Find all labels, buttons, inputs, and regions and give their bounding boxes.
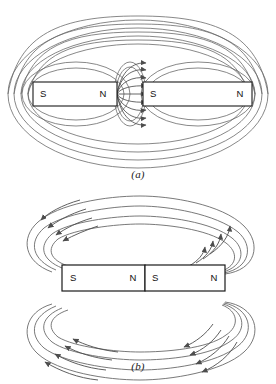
panel-b-drawing: S N S N: [0, 192, 276, 384]
pole-label-n-right-b: N: [211, 272, 218, 283]
upper-right-arrows-b: [189, 226, 230, 266]
panel-a-drawing: S N S N: [0, 0, 276, 192]
pole-label-n-left-a: N: [100, 88, 107, 99]
caption-a: (a): [0, 168, 276, 180]
panel-a-left-magnet: S N: [33, 82, 117, 106]
pole-label-s-left-b: S: [70, 272, 76, 283]
panel-b-left-magnet: S N: [62, 265, 145, 291]
panel-b-right-magnet: S N: [145, 265, 225, 291]
magnetic-field-figure: S N S N (a): [0, 0, 276, 384]
upper-field-loops-b: [27, 196, 254, 274]
panel-b: S N S N: [0, 192, 276, 384]
panel-a-right-magnet: S N: [143, 82, 252, 106]
pole-label-n-left-b: N: [130, 272, 137, 283]
pole-label-n-right-a: N: [237, 88, 244, 99]
caption-b: (b): [0, 360, 276, 372]
panel-a: S N S N: [0, 0, 276, 192]
pole-label-s-left-a: S: [40, 88, 46, 99]
pole-label-s-right-a: S: [150, 88, 156, 99]
pole-label-s-right-b: S: [152, 272, 158, 283]
